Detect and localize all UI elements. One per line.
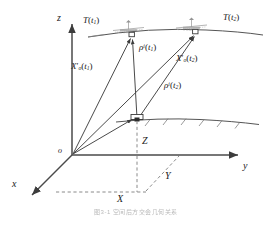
axis-label-x: x: [12, 179, 16, 189]
axis-label-y: y: [243, 161, 247, 171]
projection-dashes: [56, 121, 179, 192]
rho-t1-label: ρi(t1): [139, 43, 156, 53]
origin-label: o: [58, 147, 62, 155]
axis-group: [32, 24, 238, 195]
satellite-2-label: T(t2): [223, 13, 239, 23]
ground-hatching: [145, 119, 240, 129]
Xo-t1-label: X′o(t1): [71, 62, 93, 72]
dash-Y-diag: [146, 156, 179, 191]
component-label-Y: Y: [165, 171, 171, 181]
component-label-X: X: [117, 194, 123, 204]
orbit-arc-left-tail: [88, 35, 104, 37]
satellite-1-label: T(t1): [83, 16, 99, 26]
figure-container: z y x o T(t1) T(t2) ρi(t1) ρi(t2) X′o(t1…: [0, 0, 272, 227]
satellite-marker-1: [129, 32, 134, 36]
axis-x: [32, 155, 72, 195]
rho-t2-label: ρi(t2): [164, 81, 181, 91]
figure-caption: 图3-1 空间后方交会几何关系: [0, 207, 272, 216]
component-label-Z: Z: [142, 136, 148, 146]
satellite-marker-2: [193, 29, 198, 33]
axis-label-z: z: [57, 13, 61, 23]
diagram-canvas: [0, 0, 272, 227]
vector-rho-t1: [133, 40, 138, 119]
Xo-t2-label: X′o(t2): [176, 54, 198, 64]
